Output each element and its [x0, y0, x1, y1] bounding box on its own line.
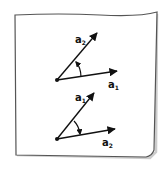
paper-frame — [15, 12, 157, 158]
diagram-canvas: a2 a1 a1 a2 — [0, 0, 166, 170]
origin-dot-bottom — [55, 137, 59, 141]
origin-dot-top — [55, 78, 59, 82]
